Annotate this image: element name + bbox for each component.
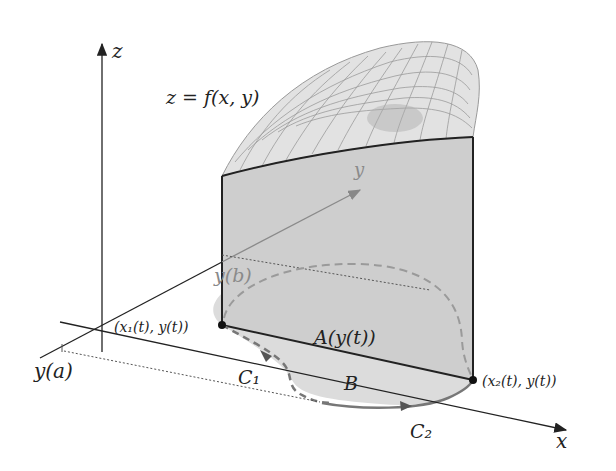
area-label: A(y(t)) (312, 326, 376, 348)
point-left-label: (x₁(t), y(t)) (114, 319, 188, 335)
surface-label: z = f(x, y) (165, 86, 259, 108)
curve-c2-label: C₂ (410, 420, 432, 442)
y-axis (40, 262, 222, 358)
y-axis-label: y (353, 159, 365, 180)
point-left (218, 321, 226, 329)
region-label: B (343, 372, 358, 394)
x-axis-label: x (556, 429, 567, 453)
z-axis-label: z (111, 39, 123, 63)
y-a-label: y(a) (33, 359, 73, 383)
point-right-label: (x₂(t), y(t)) (482, 373, 556, 389)
y-b-label: y(b) (213, 264, 252, 286)
curve-c1-label: C₁ (238, 366, 260, 388)
diagram-canvas: z x y z = f(x, y) y(b) y(a) (x₁(t), y(t)… (0, 0, 616, 471)
point-right (469, 376, 477, 384)
